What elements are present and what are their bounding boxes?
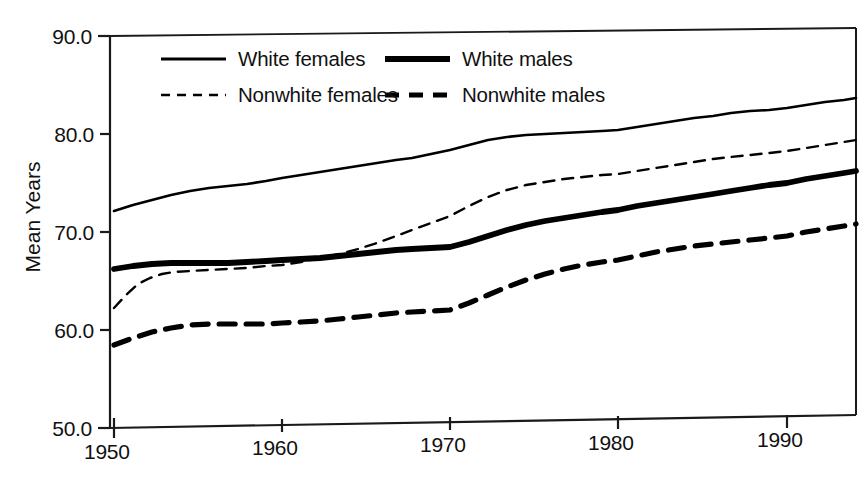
y-tick-label-70: 70.0: [0, 221, 94, 245]
x-tick-label-1990: 1990: [757, 428, 803, 452]
y-tick-label-80: 80.0: [0, 123, 94, 147]
series-line-nonwhite-males: [114, 224, 856, 345]
x-tick-label-1960: 1960: [252, 436, 298, 460]
x-axis-line: [110, 415, 856, 428]
y-tick-label-90: 90.0: [0, 25, 92, 49]
legend-label-nonwhite-females: Nonwhite females: [238, 83, 398, 107]
y-tick-label-50: 50.0: [0, 417, 92, 441]
legend-label-nonwhite-males: Nonwhite males: [462, 83, 605, 107]
y-axis-ticks: [98, 36, 110, 428]
legend-label-white-females: White females: [238, 47, 365, 71]
series-line-white-females: [114, 98, 856, 211]
plot-top-border: [110, 28, 856, 36]
x-tick-label-1950: 1950: [84, 440, 130, 464]
legend-label-white-males: White males: [462, 47, 573, 71]
plot-area: [0, 0, 867, 482]
x-tick-label-1980: 1980: [588, 431, 634, 455]
x-tick-label-1970: 1970: [420, 433, 466, 457]
y-tick-label-60: 60.0: [0, 319, 94, 343]
life-expectancy-line-chart: Mean Years 90.0 80.0 70.0 60.0 50.0 1950…: [0, 0, 867, 482]
series-group: [114, 98, 856, 345]
y-axis-title: Mean Years: [21, 132, 45, 302]
series-line-nonwhite-females: [114, 140, 856, 308]
